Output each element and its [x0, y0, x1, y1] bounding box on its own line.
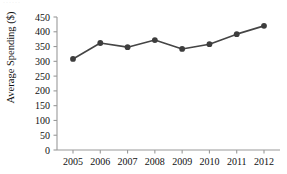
data-point-marker [261, 23, 267, 29]
data-point-marker [179, 46, 185, 52]
data-point-marker [234, 31, 240, 37]
x-axis-tick-label: 2012 [254, 156, 274, 167]
y-axis-tick-label: 200 [35, 85, 50, 96]
data-point-marker [207, 41, 213, 47]
y-axis-tick-label: 400 [35, 26, 50, 37]
y-axis-tick-label: 0 [45, 145, 50, 156]
y-axis-tick-label: 350 [35, 41, 50, 52]
x-axis-tick-label: 2011 [227, 156, 247, 167]
x-axis-tick-label: 2009 [172, 156, 192, 167]
x-axis-tick-group: 20052006200720082009201020112012 [63, 150, 274, 167]
data-point-marker [125, 44, 131, 50]
data-point-marker [97, 40, 103, 46]
x-axis-tick-label: 2010 [199, 156, 219, 167]
data-point-marker [70, 56, 76, 62]
y-axis-tick-label: 50 [40, 130, 50, 141]
x-axis-tick-label: 2007 [118, 156, 138, 167]
y-axis-tick-label: 100 [35, 115, 50, 126]
x-axis-tick-label: 2006 [90, 156, 110, 167]
y-axis-tick-label: 150 [35, 100, 50, 111]
x-axis-tick-label: 2008 [145, 156, 165, 167]
x-axis-tick-label: 2005 [63, 156, 83, 167]
data-point-marker [152, 37, 158, 43]
line-chart: ······ Average Spending ($) 050100150200… [0, 0, 287, 174]
y-axis-tick-label: 450 [35, 12, 50, 23]
y-axis-tick-group: 050100150200250300350400450 [35, 12, 57, 156]
chart-plot-area: 050100150200250300350400450 200520062007… [0, 0, 287, 174]
y-axis-tick-label: 300 [35, 56, 50, 67]
y-axis-tick-label: 250 [35, 71, 50, 82]
data-point-marker-group [70, 23, 267, 62]
